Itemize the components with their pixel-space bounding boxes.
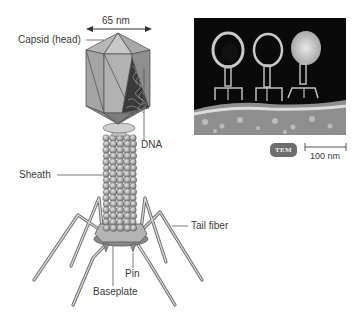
sheath-label: Sheath	[19, 170, 51, 180]
scale-bar-label: 100 nm	[310, 152, 340, 161]
capsid	[86, 33, 150, 124]
phage-diagram	[0, 0, 356, 319]
sheath	[103, 134, 137, 231]
dna-label: DNA	[141, 140, 162, 150]
capsid-label: Capsid (head)	[18, 35, 81, 45]
tem-micrograph	[194, 18, 346, 135]
dimension-label: 65 nm	[102, 16, 130, 26]
scale-bar	[305, 143, 346, 151]
pin-right	[130, 244, 136, 252]
tail-fiber-label: Tail fiber	[191, 221, 228, 231]
tem-badge: TEM	[270, 143, 297, 157]
collar	[103, 123, 135, 136]
dimension-arrow	[86, 26, 152, 32]
baseplate-label: Baseplate	[93, 287, 137, 297]
pin-label: Pin	[125, 269, 139, 279]
